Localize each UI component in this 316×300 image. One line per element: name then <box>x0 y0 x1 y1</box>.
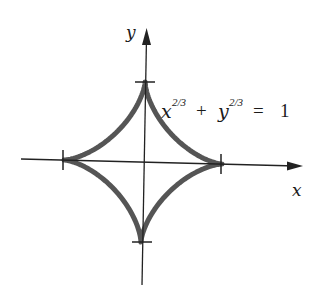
svg-text:x: x <box>161 100 172 122</box>
svg-text:+: + <box>196 100 207 121</box>
y-axis <box>132 28 155 285</box>
x-axis-arrow-icon <box>287 162 303 171</box>
svg-text:y: y <box>217 100 229 122</box>
svg-text:1: 1 <box>280 100 290 121</box>
x-axis-label: x <box>292 180 302 200</box>
equation-label: x 2/3 + y 2/3 = 1 <box>161 96 290 122</box>
svg-text:=: = <box>253 100 264 121</box>
svg-text:2/3: 2/3 <box>172 96 187 108</box>
astroid-figure: y x x 2/3 + y 2/3 = 1 <box>0 0 316 300</box>
y-axis-arrow-icon <box>142 28 151 45</box>
svg-text:2/3: 2/3 <box>229 96 244 108</box>
x-axis <box>21 150 303 174</box>
y-axis-label: y <box>125 22 136 42</box>
